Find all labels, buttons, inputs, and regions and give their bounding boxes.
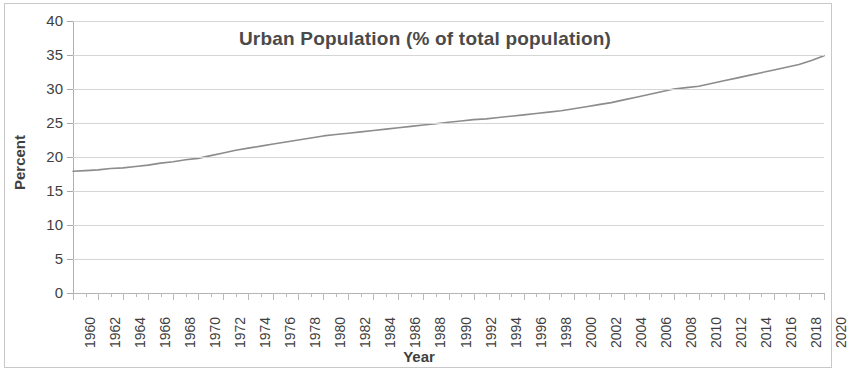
y-axis-tick-label: 10	[35, 217, 63, 232]
x-axis-tick-label: 2002	[609, 317, 623, 348]
x-axis-tick-label: 1968	[183, 317, 197, 348]
y-axis-tick-label: 40	[35, 13, 63, 28]
x-axis-tick	[211, 293, 212, 297]
x-axis-tick	[599, 293, 600, 300]
x-axis-tick	[824, 293, 825, 300]
x-axis-tick-label: 1986	[408, 317, 422, 348]
x-axis-tick	[611, 293, 612, 297]
x-axis-tick	[736, 293, 737, 297]
y-axis-tick-label: 5	[35, 251, 63, 266]
x-axis-tick	[474, 293, 475, 300]
x-axis-tick-label: 1962	[108, 317, 122, 348]
x-axis-tick-label: 2006	[659, 317, 673, 348]
x-axis-tick	[123, 293, 124, 300]
x-axis-tick-label: 1980	[333, 317, 347, 348]
gridline	[73, 225, 824, 226]
y-axis-tick-label: 30	[35, 81, 63, 96]
y-axis-tick	[67, 191, 73, 192]
x-axis-tick	[373, 293, 374, 300]
x-axis-tick	[348, 293, 349, 300]
x-axis-title: Year	[5, 348, 833, 365]
x-axis-tick	[524, 293, 525, 300]
x-axis-tick-label: 1982	[358, 317, 372, 348]
x-axis-tick-label: 2014	[759, 317, 773, 348]
y-axis-tick	[67, 123, 73, 124]
y-axis-tick	[67, 259, 73, 260]
x-axis-tick-label: 1960	[83, 317, 97, 348]
x-axis-tick	[661, 293, 662, 297]
x-axis-tick	[561, 293, 562, 297]
x-axis-tick	[636, 293, 637, 297]
x-axis-tick	[311, 293, 312, 297]
x-axis-tick	[136, 293, 137, 297]
x-axis-tick	[398, 293, 399, 300]
x-axis-tick	[686, 293, 687, 297]
gridline	[73, 157, 824, 158]
x-axis-tick	[248, 293, 249, 300]
x-axis-tick	[799, 293, 800, 300]
x-axis-tick	[724, 293, 725, 300]
x-axis-tick	[111, 293, 112, 297]
x-axis-tick	[161, 293, 162, 297]
gridline	[73, 191, 824, 192]
x-axis-tick	[574, 293, 575, 300]
y-axis-tick	[67, 89, 73, 90]
x-axis-tick	[786, 293, 787, 297]
x-axis-tick-label: 1966	[158, 317, 172, 348]
x-axis-tick	[549, 293, 550, 300]
y-axis-tick	[67, 293, 73, 294]
x-axis-tick-label: 2004	[634, 317, 648, 348]
gridline	[73, 55, 824, 56]
x-axis-tick	[286, 293, 287, 297]
x-axis-tick	[811, 293, 812, 297]
y-axis-tick	[67, 55, 73, 56]
plot-area	[73, 21, 824, 293]
x-axis-tick	[511, 293, 512, 297]
x-axis-tick	[173, 293, 174, 300]
x-axis-tick-label: 1974	[258, 317, 272, 348]
x-axis-tick	[98, 293, 99, 300]
x-axis-tick	[361, 293, 362, 297]
x-axis-tick	[774, 293, 775, 300]
x-axis-tick-label: 1972	[233, 317, 247, 348]
x-axis-tick	[186, 293, 187, 297]
x-axis-tick	[586, 293, 587, 297]
x-axis-tick	[436, 293, 437, 297]
gridline	[73, 89, 824, 90]
x-axis-tick	[236, 293, 237, 297]
x-axis-tick	[273, 293, 274, 300]
x-axis-tick	[323, 293, 324, 300]
x-axis-tick	[261, 293, 262, 297]
x-axis-tick	[761, 293, 762, 297]
x-axis-tick-label: 2010	[709, 317, 723, 348]
y-axis-tick-label: 20	[35, 149, 63, 164]
x-axis-tick-label: 2016	[784, 317, 798, 348]
x-axis-tick	[386, 293, 387, 297]
y-axis-tick-label: 15	[35, 183, 63, 198]
x-axis-tick-label: 2012	[734, 317, 748, 348]
x-axis-tick-label: 1988	[433, 317, 447, 348]
x-axis-tick	[198, 293, 199, 300]
x-axis-tick-label: 1978	[308, 317, 322, 348]
x-axis-tick-label: 1964	[133, 317, 147, 348]
x-axis-tick-label: 1996	[534, 317, 548, 348]
x-axis-tick	[624, 293, 625, 300]
x-axis-tick	[298, 293, 299, 300]
y-axis-tick	[67, 157, 73, 158]
x-axis-ticks	[73, 293, 824, 300]
x-axis-tick-label: 2018	[809, 317, 823, 348]
x-axis-tick	[411, 293, 412, 297]
y-axis-title: Percent	[11, 118, 28, 208]
chart-container: 0510152025303540 Percent Urban Populatio…	[4, 3, 832, 368]
x-axis-tick	[336, 293, 337, 297]
x-axis-tick-label: 1990	[459, 317, 473, 348]
x-axis-tick	[223, 293, 224, 300]
y-axis-tick	[67, 21, 73, 22]
x-axis-tick	[449, 293, 450, 300]
y-axis-tick-label: 0	[35, 285, 63, 300]
y-axis-tick	[67, 225, 73, 226]
x-axis-tick	[486, 293, 487, 297]
x-axis-tick-label: 1984	[383, 317, 397, 348]
x-axis-tick	[699, 293, 700, 300]
x-axis-tick-label: 1976	[283, 317, 297, 348]
